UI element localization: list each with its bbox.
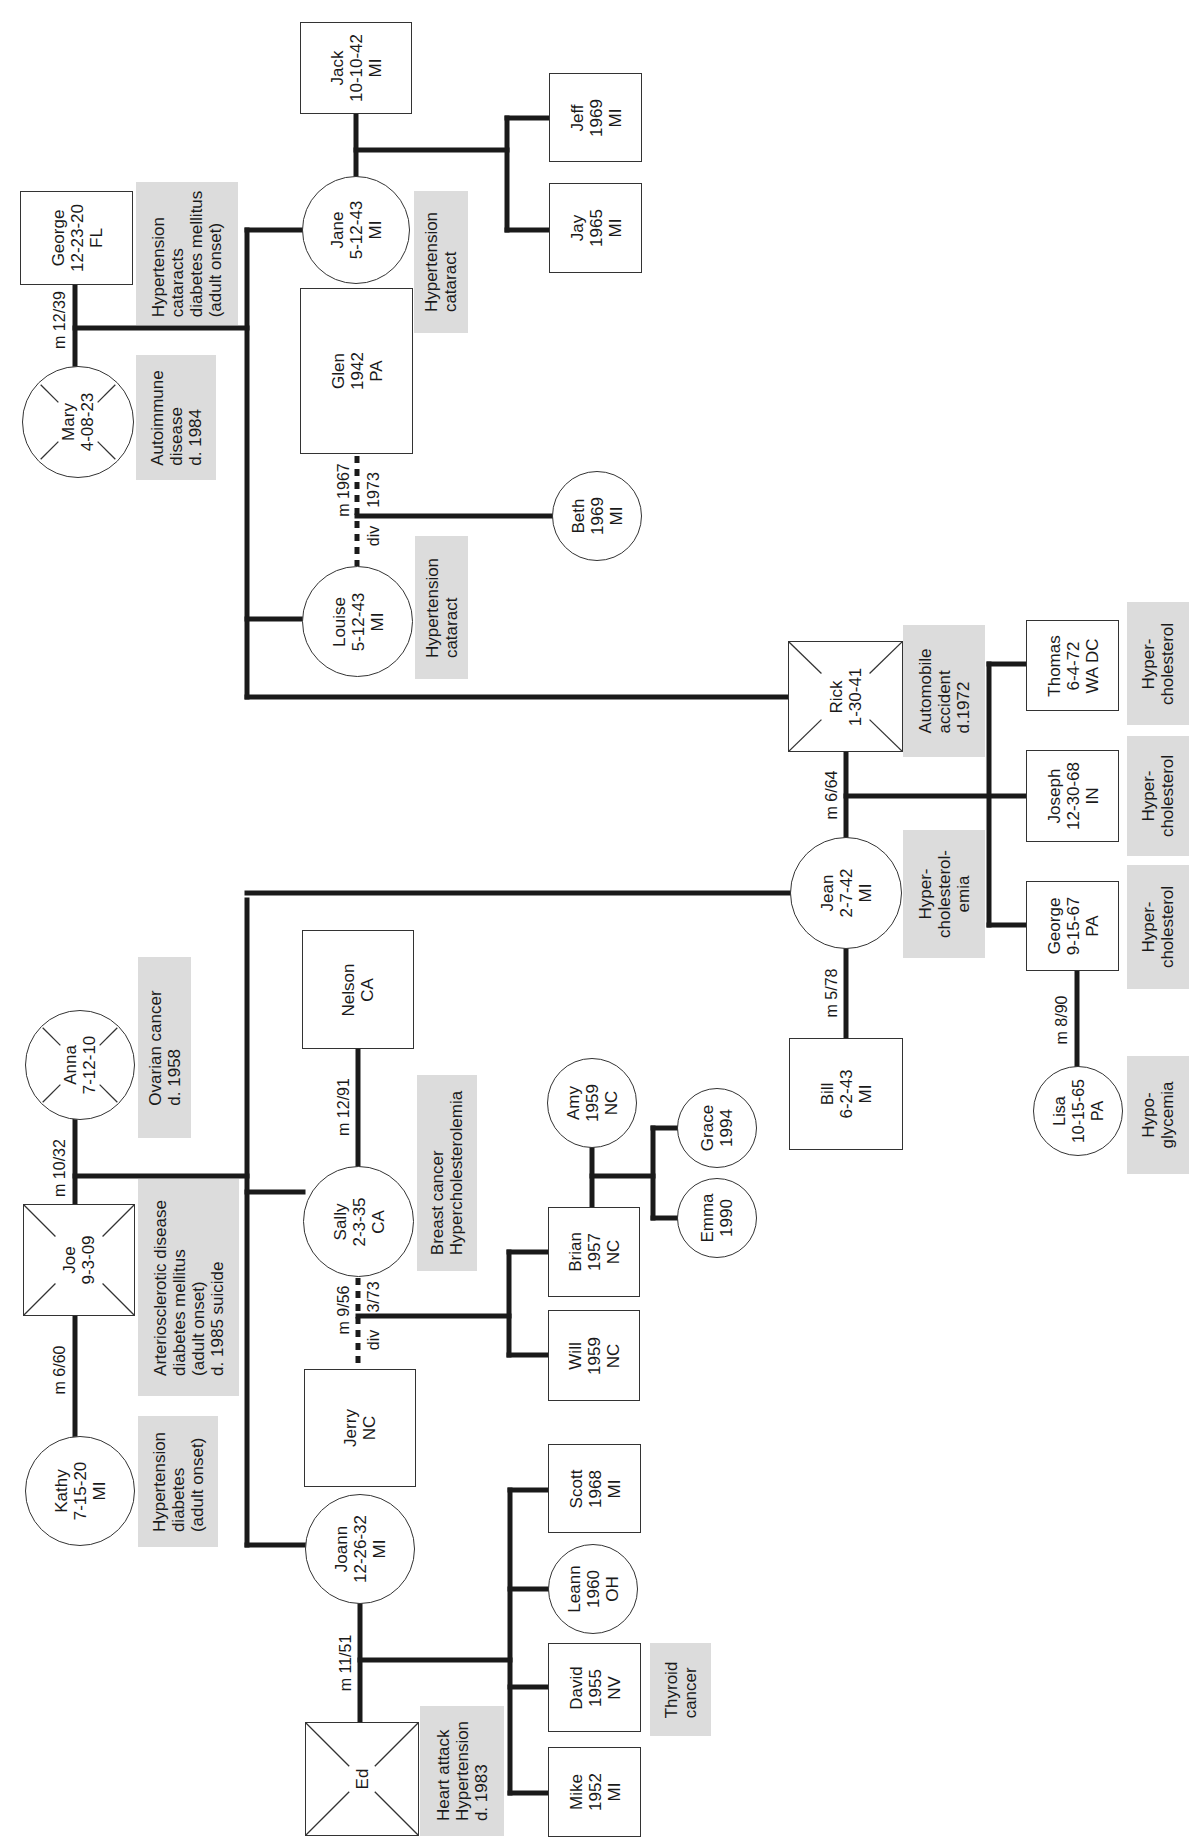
- people-george-sr-place: FL: [86, 204, 105, 272]
- person-sally[interactable]: Sally2-3-35CA: [303, 1166, 414, 1277]
- person-beth[interactable]: Beth1969MI: [552, 471, 642, 561]
- person-amy[interactable]: Amy1959NC: [547, 1058, 637, 1148]
- people-scott-place: MI: [604, 1469, 623, 1508]
- person-george-sr[interactable]: George12-23-20FL: [20, 191, 133, 285]
- people-jean-place: MI: [856, 868, 875, 917]
- person-will[interactable]: Will1959NC: [548, 1310, 640, 1401]
- person-brian[interactable]: Brian1957NC: [548, 1207, 640, 1297]
- person-jane[interactable]: Jane5-12-43MI: [302, 176, 410, 284]
- person-ed[interactable]: Ed: [305, 1722, 419, 1836]
- person-jean[interactable]: Jean2-7-42MI: [790, 837, 902, 949]
- node-text: Rick1-30-41: [827, 667, 865, 726]
- node-text: Hyper-cholesterol: [1139, 622, 1177, 704]
- node-text: Ed: [353, 1769, 372, 1790]
- note-sally: Breast cancerHypercholesterolemia: [417, 1075, 477, 1271]
- notes-sally-1: Hypercholesterolemia: [447, 1091, 466, 1255]
- node-text: Glen1942PA: [328, 352, 385, 390]
- people-brian-place: NC: [604, 1232, 623, 1272]
- people-sally-place: CA: [368, 1197, 387, 1246]
- person-joe[interactable]: Joe9-3-09: [23, 1204, 135, 1316]
- node-text: Thomas6-4-72WA DC: [1044, 635, 1101, 696]
- person-lisa[interactable]: Lisa10-15-65PA: [1033, 1066, 1123, 1156]
- people-glen-place: PA: [366, 352, 385, 390]
- people-glen-name: Glen: [328, 352, 347, 390]
- notes-george-sr-1: cataracts: [168, 190, 187, 317]
- person-kathy[interactable]: Kathy7-15-20MI: [25, 1436, 135, 1546]
- people-bill-born: 6-2-43: [837, 1069, 856, 1118]
- people-jerry-place: NC: [360, 1409, 379, 1447]
- people-anna-name: Anna: [61, 1036, 80, 1095]
- people-will-place: NC: [604, 1337, 623, 1375]
- person-glen[interactable]: Glen1942PA: [300, 288, 413, 454]
- notes-kathy-1: diabetes: [169, 1431, 188, 1531]
- people-scott-born: 1968: [585, 1469, 604, 1508]
- node-text: Bill6-2-43MI: [818, 1069, 875, 1118]
- person-mary[interactable]: Mary4-08-23: [22, 366, 134, 478]
- node-text: Beth1969MI: [569, 497, 626, 535]
- person-thomas[interactable]: Thomas6-4-72WA DC: [1026, 620, 1119, 711]
- person-rick[interactable]: Rick1-30-41: [788, 641, 903, 752]
- note-joseph: Hyper-cholesterol: [1127, 736, 1189, 856]
- person-anna[interactable]: Anna7-12-10: [25, 1010, 135, 1120]
- person-jay[interactable]: Jay1965MI: [549, 183, 642, 273]
- marriage-label-louise-glen: m 1967: [335, 463, 353, 516]
- people-rick-born: 1-30-41: [846, 667, 865, 726]
- people-jack-name: Jack: [328, 34, 347, 102]
- person-mike[interactable]: Mike1952MI: [548, 1747, 641, 1837]
- person-jeff[interactable]: Jeff1969MI: [549, 73, 642, 162]
- people-david-name: David: [566, 1666, 585, 1709]
- people-nelson-place: CA: [358, 963, 377, 1016]
- node-text: Hypertensiondiabetes(adult onset): [150, 1431, 207, 1531]
- person-jerry[interactable]: JerryNC: [304, 1369, 416, 1487]
- notes-jean-0: Hyper-: [916, 850, 935, 938]
- node-text: Jean2-7-42MI: [818, 868, 875, 917]
- people-joe-born: 9-3-09: [79, 1235, 98, 1284]
- people-joann-name: Joann: [332, 1515, 351, 1583]
- note-mary: Autoimmunediseased. 1984: [136, 355, 216, 480]
- notes-mary-2: d. 1984: [186, 370, 205, 465]
- divorce-label-sally-jerry: div: [365, 1330, 383, 1350]
- marriage-label-joe-kathy: m 6/60: [51, 1346, 69, 1395]
- note-lisa: Hypo-glycemia: [1127, 1056, 1189, 1174]
- people-jeff-born: 1969: [586, 99, 605, 137]
- person-jack[interactable]: Jack10-10-42MI: [300, 22, 412, 114]
- node-text: Hypertensioncataract: [423, 557, 461, 657]
- person-george-jr[interactable]: George9-15-67PA: [1026, 881, 1119, 971]
- people-grace-name: Grace: [698, 1105, 717, 1151]
- node-text: Louise5-12-43MI: [329, 592, 386, 651]
- node-text: Jack10-10-42MI: [328, 34, 385, 102]
- marriage-label-sally-jerry: m 9/56: [335, 1286, 353, 1335]
- notes-lisa-1: glycemia: [1158, 1081, 1177, 1148]
- person-louise[interactable]: Louise5-12-43MI: [302, 566, 413, 677]
- note-david: Thyroidcancer: [650, 1643, 711, 1736]
- person-joseph[interactable]: Joseph12-30-68IN: [1026, 750, 1119, 842]
- people-bill-name: Bill: [818, 1069, 837, 1118]
- person-david[interactable]: David1955NV: [548, 1643, 641, 1732]
- people-ed-name: Ed: [353, 1769, 372, 1790]
- note-jean: Hyper-cholesterol-emia: [903, 830, 985, 958]
- notes-david-1: cancer: [681, 1661, 700, 1718]
- person-grace[interactable]: Grace1994: [677, 1088, 757, 1168]
- person-nelson[interactable]: NelsonCA: [302, 930, 414, 1049]
- notes-ed-1: Hypertension: [453, 1721, 472, 1821]
- notes-sally-0: Breast cancer: [428, 1091, 447, 1255]
- people-jay-place: MI: [605, 209, 624, 247]
- marriage-label-jean-rick: m 6/64: [823, 771, 841, 820]
- people-will-name: Will: [566, 1337, 585, 1375]
- person-joann[interactable]: Joann12-26-32MI: [305, 1494, 415, 1604]
- person-bill[interactable]: Bill6-2-43MI: [789, 1038, 903, 1150]
- people-thomas-place: WA DC: [1082, 635, 1101, 696]
- node-text: Will1959NC: [566, 1337, 623, 1375]
- node-text: Hyper-cholesterol: [1139, 886, 1177, 968]
- notes-thomas-0: Hyper-: [1139, 622, 1158, 704]
- node-text: Joann12-26-32MI: [332, 1515, 389, 1583]
- notes-rick-2: d.1972: [954, 648, 973, 733]
- person-leann[interactable]: Leann1960OH: [548, 1544, 638, 1634]
- people-jane-place: MI: [366, 201, 385, 260]
- people-joseph-name: Joseph: [1044, 762, 1063, 830]
- person-scott[interactable]: Scott1968MI: [548, 1444, 641, 1533]
- people-jean-name: Jean: [818, 868, 837, 917]
- people-amy-name: Amy: [564, 1084, 583, 1122]
- person-emma[interactable]: Emma1990: [677, 1178, 757, 1258]
- people-rick-name: Rick: [827, 667, 846, 726]
